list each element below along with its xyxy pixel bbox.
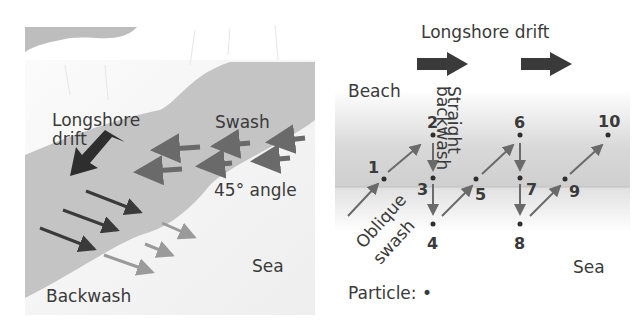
drift-arrow-2 bbox=[521, 52, 572, 76]
point-3: 3 bbox=[417, 182, 428, 198]
backwash-label: Backwash bbox=[46, 288, 131, 305]
angle-label: 45° angle bbox=[214, 182, 297, 199]
particle-legend: Particle: • bbox=[348, 285, 432, 302]
plan-view-graphic bbox=[0, 0, 320, 334]
swash-label: Swash bbox=[215, 114, 270, 131]
drift-arrow-1 bbox=[417, 52, 468, 76]
sea-label-right: Sea bbox=[573, 259, 605, 276]
point-8: 8 bbox=[514, 236, 525, 252]
longshore-drift-title: Longshore drift bbox=[421, 24, 550, 41]
longshore-drift-label-line1: Longshore bbox=[52, 112, 140, 129]
particle-movement-diagram: Longshore drift Beach Straight backwash … bbox=[320, 0, 635, 334]
point-10: 10 bbox=[598, 114, 620, 130]
sea-label-left: Sea bbox=[252, 258, 284, 275]
point-2: 2 bbox=[427, 115, 438, 131]
beach-label: Beach bbox=[348, 83, 401, 100]
point-7: 7 bbox=[526, 182, 537, 198]
point-4: 4 bbox=[427, 236, 438, 252]
point-1: 1 bbox=[368, 160, 379, 176]
point-6: 6 bbox=[514, 115, 525, 131]
point-5: 5 bbox=[475, 187, 486, 203]
longshore-drift-label-line2: drift bbox=[52, 131, 87, 148]
point-9: 9 bbox=[569, 184, 580, 200]
land-area bbox=[25, 27, 137, 52]
beach-plan-view-diagram: Longshore drift Swash 45° angle Sea Back… bbox=[0, 0, 320, 334]
